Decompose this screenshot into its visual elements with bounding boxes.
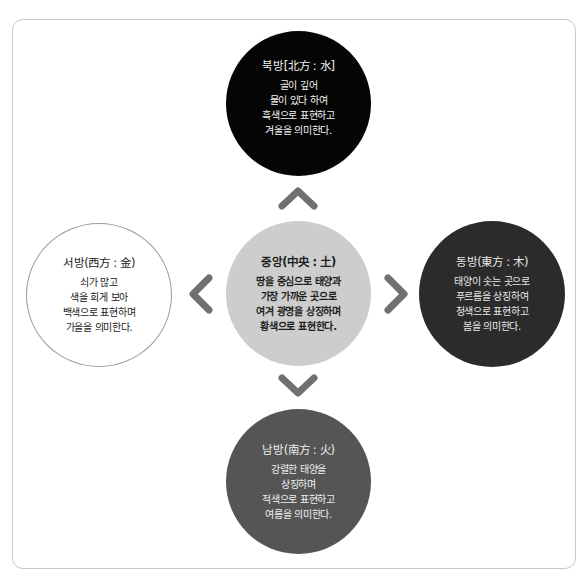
node-south-title: 남방(南方 : 火) [262, 442, 334, 458]
node-west-line: 백색으로 표현하며 [63, 305, 135, 320]
node-east: 동방(東方 : 木) 태양이 솟는 곳으로 푸르름을 상징하여 청색으로 표현하… [419, 221, 565, 367]
node-south-line: 적색으로 표현하고 [262, 492, 334, 507]
node-east-line: 푸르름을 상징하여 [456, 289, 528, 304]
node-west-line: 쇠가 많고 [80, 275, 118, 290]
node-center-title: 중앙(中央 : 土) [261, 254, 336, 270]
node-west: 서방(西方 : 金) 쇠가 많고 색을 희게 보아 백색으로 표현하며 가을을 … [26, 223, 172, 367]
chevron-left-icon [186, 272, 216, 316]
node-center-line: 땅을 중심으로 태양과 [256, 274, 341, 289]
chevron-right-icon [381, 272, 411, 316]
node-center-line: 여겨 광명을 상징하며 [256, 304, 341, 319]
node-west-title: 서방(西方 : 金) [63, 255, 135, 271]
node-east-line: 태양이 솟는 곳으로 [454, 274, 529, 289]
node-center-line: 황색으로 표현한다. [260, 319, 336, 334]
node-south-line: 강렬한 태양을 [271, 462, 326, 477]
chevron-up-icon [276, 184, 320, 212]
node-north: 북방[北方 : 水] 골이 깊어 물이 있다 하여 흑색으로 표현하고 겨울을 … [226, 31, 371, 176]
node-south: 남방(南方 : 火) 강렬한 태양을 상징하며 적색으로 표현하고 여름을 의미… [226, 409, 371, 554]
node-west-line: 색을 희게 보아 [70, 290, 128, 305]
chevron-down-icon [276, 372, 320, 400]
node-east-line: 봄을 의미한다. [463, 319, 521, 334]
node-north-line: 물이 있다 하여 [262, 93, 334, 108]
node-east-title: 동방(東方 : 木) [456, 254, 528, 270]
node-west-line: 가을을 의미한다. [66, 320, 133, 335]
node-north-line: 겨울을 의미한다. [262, 123, 334, 138]
node-east-line: 청색으로 표현하고 [456, 304, 528, 319]
node-center-line: 가장 가까운 곳으로 [261, 289, 337, 304]
node-north-line: 골이 깊어 [262, 78, 334, 93]
node-center: 중앙(中央 : 土) 땅을 중심으로 태양과 가장 가까운 곳으로 여겨 광명을… [226, 221, 371, 366]
node-north-line: 흑색으로 표현하고 [262, 108, 334, 123]
node-south-line: 상징하며 [281, 477, 316, 492]
node-north-content: 북방[北方 : 水] 골이 깊어 물이 있다 하여 흑색으로 표현하고 겨울을 … [262, 58, 334, 138]
node-south-line: 여름을 의미한다. [265, 507, 332, 522]
node-north-title: 북방[北方 : 水] [262, 58, 334, 74]
